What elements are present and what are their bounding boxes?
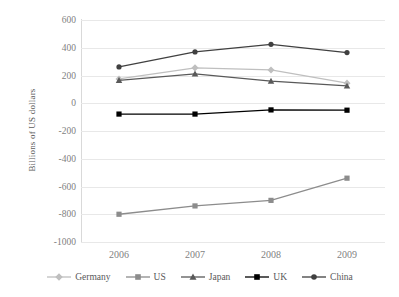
y-axis-tick-label: -200 xyxy=(34,126,76,136)
legend-marker-icon xyxy=(125,272,151,282)
data-point xyxy=(192,111,197,116)
legend-item-germany[interactable]: Germany xyxy=(46,272,110,282)
legend-label: China xyxy=(330,272,353,282)
legend-item-japan[interactable]: Japan xyxy=(180,272,231,282)
data-point xyxy=(268,107,273,112)
data-point xyxy=(116,64,121,69)
legend-label: Japan xyxy=(209,272,231,282)
legend-marker-icon xyxy=(180,272,206,282)
data-point xyxy=(344,108,349,113)
data-point xyxy=(192,49,197,54)
x-axis-tick-label: 2006 xyxy=(109,249,129,260)
legend-label: US xyxy=(154,272,166,282)
legend-item-uk[interactable]: UK xyxy=(244,272,287,282)
data-point xyxy=(192,203,197,208)
gridline xyxy=(81,242,385,243)
legend-item-us[interactable]: US xyxy=(125,272,166,282)
data-point xyxy=(268,198,273,203)
series-japan xyxy=(116,71,351,89)
series-line xyxy=(119,44,347,67)
data-point xyxy=(344,50,349,55)
y-axis-tick-label: 0 xyxy=(34,98,76,108)
chart-legend: GermanyUSJapanUKChina xyxy=(0,272,399,282)
y-axis-tick-label: -400 xyxy=(34,154,76,164)
series-us xyxy=(116,176,349,217)
line-chart: Billions of US dollars 6004002000-200-40… xyxy=(0,0,399,297)
legend-marker-icon xyxy=(46,272,72,282)
series-line xyxy=(119,178,347,214)
series-layer xyxy=(81,20,385,242)
data-point xyxy=(116,212,121,217)
x-axis-tick-labels: 2006200720082009 xyxy=(81,249,385,263)
y-axis-tick-label: 200 xyxy=(34,71,76,81)
y-axis-tick-label: 400 xyxy=(34,43,76,53)
data-point xyxy=(268,42,273,47)
y-axis-tick-label: 600 xyxy=(34,15,76,25)
series-line xyxy=(119,110,347,114)
x-axis-tick-label: 2007 xyxy=(185,249,205,260)
legend-marker-icon xyxy=(301,272,327,282)
data-point xyxy=(267,66,274,73)
legend-label: UK xyxy=(273,272,287,282)
y-axis-tick-label: -800 xyxy=(34,209,76,219)
x-axis-tick-label: 2008 xyxy=(261,249,281,260)
series-line xyxy=(119,74,347,86)
plot-area xyxy=(81,20,385,242)
y-axis-tick-label: -1000 xyxy=(34,237,76,247)
data-point xyxy=(116,111,121,116)
y-axis-tick-labels: 6004002000-200-400-600-800-1000 xyxy=(30,20,76,242)
series-china xyxy=(116,42,349,70)
data-point xyxy=(344,176,349,181)
legend-item-china[interactable]: China xyxy=(301,272,353,282)
y-axis-tick-label: -600 xyxy=(34,182,76,192)
data-point xyxy=(191,64,198,71)
series-line xyxy=(119,68,347,83)
legend-label: Germany xyxy=(75,272,110,282)
legend-marker-icon xyxy=(244,272,270,282)
series-uk xyxy=(116,107,349,116)
x-axis-tick-label: 2009 xyxy=(337,249,357,260)
